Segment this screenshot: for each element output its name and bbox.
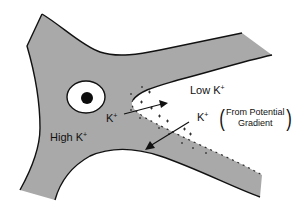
label-high-k-text: High K bbox=[50, 131, 83, 143]
annotation-text: From Potential Gradient bbox=[226, 107, 285, 129]
open-paren: ( bbox=[219, 106, 225, 130]
label-low-k: Low K+ bbox=[190, 85, 225, 96]
label-low-k-sup: + bbox=[221, 84, 225, 91]
annotation-potential-gradient: ( From Potential Gradient ) bbox=[218, 106, 293, 130]
label-low-k-text: Low K bbox=[190, 84, 221, 96]
annotation-line2: Gradient bbox=[226, 118, 285, 129]
diagram-canvas: Low K+ K+ K+ High K+ ( From Potential Gr… bbox=[0, 0, 304, 215]
annotation-line1: From Potential bbox=[226, 107, 285, 118]
label-k-in: K+ bbox=[106, 113, 117, 124]
label-k-in-sup: + bbox=[113, 112, 117, 119]
label-k-out: K+ bbox=[197, 112, 208, 123]
label-high-k-sup: + bbox=[83, 131, 87, 138]
cell-nucleus bbox=[81, 92, 93, 104]
close-paren: ) bbox=[286, 106, 292, 130]
label-high-k: High K+ bbox=[50, 132, 87, 143]
label-k-out-sup: + bbox=[204, 111, 208, 118]
